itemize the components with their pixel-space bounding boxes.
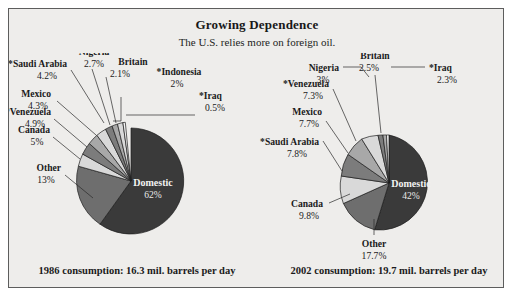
slice-label-iraq-pct: 2.3%	[437, 74, 457, 85]
slice-label-venezuela-name: *Venezuela	[283, 78, 329, 89]
slice-label-britain-pct: 2.5%	[359, 62, 379, 73]
slice-label-britain-name: Britain	[360, 53, 390, 61]
caption-2002: 2002 consumption: 19.7 mil. barrels per …	[267, 265, 511, 276]
slice-label-saudi-arabia-pct: 7.8%	[287, 148, 307, 159]
slice-label-other-name: Other	[36, 162, 61, 173]
page-subtitle: The U.S. relies more on foreign oil.	[9, 35, 505, 50]
slice-label-saudi-arabia-pct: 4.2%	[37, 70, 57, 81]
page-title: Growing Dependence	[9, 17, 505, 33]
leader-line-britain	[375, 75, 381, 133]
slice-label-domestic-pct: 62%	[144, 189, 162, 200]
slice-label-iraq-pct: 0.5%	[205, 102, 225, 113]
pie-chart-1986: *Saudi Arabia 4.2% Nigeria 2.7% Britain …	[9, 53, 259, 263]
leader-line-mexico	[57, 101, 96, 135]
slice-label-nigeria-name: Nigeria	[309, 62, 340, 73]
leader-line-mexico	[326, 121, 348, 153]
slice-label-venezuela-pct: 7.3%	[303, 90, 323, 101]
leader-line-saudi-arabia	[71, 70, 104, 123]
slice-label-other-pct: 13%	[37, 174, 55, 185]
pie-chart-2002: Nigeria 3% Britain 2.5% *Iraq 2.3% *Vene…	[257, 53, 507, 263]
slice-label-indonesia-pct: 2%	[171, 78, 184, 89]
leader-line-indonesia	[113, 97, 121, 121]
slice-label-nigeria-name: Nigeria	[79, 53, 110, 57]
slice-label-domestic-name: Domestic	[391, 178, 431, 189]
slice-label-domestic-name: Domestic	[133, 177, 173, 188]
slice-label-canada-name: Canada	[291, 198, 323, 209]
slice-label-iraq-name: *Iraq	[199, 90, 223, 101]
slice-label-nigeria-pct: 2.7%	[84, 58, 104, 69]
slice-label-canada-pct: 9.8%	[299, 210, 319, 221]
slice-label-mexico-name: Mexico	[21, 88, 51, 99]
slice-label-other-pct: 17.7%	[362, 250, 387, 261]
leader-line-nigeria	[92, 69, 110, 125]
slice-label-mexico-name: Mexico	[292, 106, 322, 117]
slice-label-canada-name: Canada	[18, 124, 50, 135]
slice-label-domestic-pct: 42%	[402, 190, 420, 201]
chart-frame: Growing Dependence The U.S. relies more …	[8, 8, 504, 288]
slice-label-indonesia-name: *Indonesia	[157, 66, 202, 77]
slice-label-britain-name: Britain	[118, 56, 148, 67]
slice-label-britain-pct: 2.1%	[110, 68, 130, 79]
leader-line-canada	[53, 137, 80, 159]
slice-label-mexico-pct: 7.7%	[299, 118, 319, 129]
slice-label-venezuela-name: *Venezuela	[9, 106, 51, 117]
title-block: Growing Dependence The U.S. relies more …	[9, 17, 505, 50]
slice-label-saudi-arabia-name: *Saudi Arabia	[260, 136, 319, 147]
caption-1986: 1986 consumption: 16.3 mil. barrels per …	[15, 265, 259, 276]
slice-label-saudi-arabia-name: *Saudi Arabia	[9, 58, 67, 69]
slice-label-iraq-name: *Iraq	[429, 62, 453, 73]
slice-label-other-name: Other	[362, 238, 387, 249]
figure-canvas: Growing Dependence The U.S. relies more …	[0, 0, 514, 299]
leader-line-venezuela	[333, 89, 356, 141]
slice-label-canada-pct: 5%	[31, 136, 44, 147]
leader-line-saudi-arabia	[323, 141, 342, 171]
